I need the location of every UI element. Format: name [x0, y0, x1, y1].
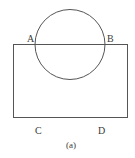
diagram-canvas: A B C D (a)	[0, 0, 135, 158]
point-label-a: A	[27, 33, 35, 44]
point-label-d: D	[98, 125, 105, 136]
point-label-c: C	[35, 125, 42, 136]
rectangle-shape	[14, 45, 128, 118]
point-label-b: B	[107, 33, 114, 44]
figure-caption: (a)	[66, 140, 76, 150]
